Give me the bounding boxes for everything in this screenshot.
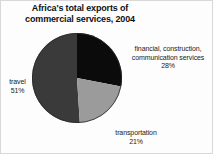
slice-label-travel-line-1: travel bbox=[2, 78, 33, 87]
pie-svg bbox=[32, 33, 122, 123]
slice-label-financial: financial, construction, communication s… bbox=[123, 45, 213, 71]
slice-label-transportation-line-1: transportation bbox=[97, 129, 175, 138]
chart-title-line-2: commercial services, 2004 bbox=[9, 14, 151, 25]
slice-value-financial: 28% bbox=[123, 62, 213, 71]
chart-title-line-1: Africa's total exports of bbox=[9, 3, 151, 14]
slice-value-travel: 51% bbox=[2, 87, 33, 96]
slice-label-financial-line-1: financial, construction, bbox=[123, 45, 213, 54]
slice-label-travel: travel 51% bbox=[2, 78, 33, 95]
chart-title: Africa's total exports of commercial ser… bbox=[9, 3, 151, 25]
slice-label-transportation: transportation 21% bbox=[97, 129, 175, 146]
pie-graphic bbox=[32, 33, 122, 123]
slice-value-transportation: 21% bbox=[97, 138, 175, 147]
pie-slice-travel bbox=[32, 33, 80, 123]
pie-slice-financial bbox=[77, 33, 122, 86]
slice-label-financial-line-2: communication services bbox=[123, 54, 213, 63]
pie-chart-figure: Africa's total exports of commercial ser… bbox=[0, 0, 213, 154]
